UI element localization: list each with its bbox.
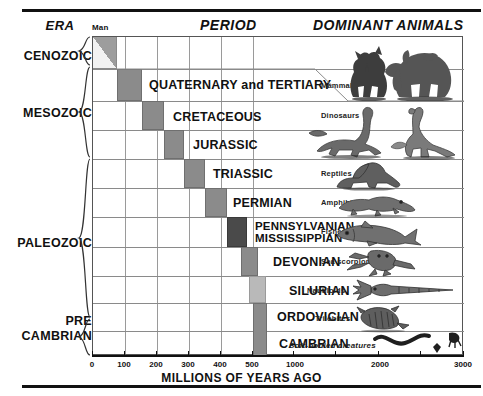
x-tick-1000 xyxy=(293,351,294,357)
era-brace-mesozoic xyxy=(77,66,91,158)
era-brace-precambrian xyxy=(77,318,91,356)
x-tick-label-1000: 1000 xyxy=(286,360,304,369)
era-brace-cenozoic xyxy=(77,36,91,66)
x-tick-400 xyxy=(220,351,221,357)
reptiles-illustration xyxy=(329,161,409,191)
column-header-period: PERIOD xyxy=(200,17,257,33)
x-tick-label-200: 200 xyxy=(149,360,162,369)
x-tick-label-2000: 2000 xyxy=(371,360,389,369)
chart-plot-area: QUATERNARY and TERTIARY CRETACEOUS JURAS… xyxy=(92,36,463,355)
x-tick-label-100: 100 xyxy=(117,360,130,369)
trilobites-illustration xyxy=(351,305,421,333)
mammals-illustration xyxy=(339,39,464,101)
column-header-animals: DOMINANT ANIMALS xyxy=(313,17,464,33)
x-tick-label-400: 400 xyxy=(213,360,226,369)
geologic-time-scale-figure: ERA PERIOD DOMINANT ANIMALS Man CENOZOIC… xyxy=(0,0,483,396)
x-axis-line xyxy=(92,355,463,357)
x-tick-label-500: 500 xyxy=(245,360,258,369)
x-tick-200 xyxy=(156,351,157,357)
soft-bodied-creatures-illustration xyxy=(371,331,463,355)
amphibians-illustration xyxy=(333,190,419,218)
x-tick-3000 xyxy=(463,351,464,357)
x-axis-title: MILLIONS OF YEARS AGO xyxy=(0,371,483,385)
x-tick-500 xyxy=(252,351,253,357)
x-tick-label-0: 0 xyxy=(90,360,94,369)
x-tick-0 xyxy=(92,351,93,357)
man-label: Man xyxy=(92,23,109,32)
nautiloids-illustration xyxy=(351,278,459,302)
x-tick-label-300: 300 xyxy=(181,360,194,369)
fishes-illustration xyxy=(331,219,423,247)
dinosaurs-illustration xyxy=(303,103,463,161)
top-rule xyxy=(22,9,481,12)
era-brace-paleozoic xyxy=(77,158,91,318)
x-tick-2500 xyxy=(420,351,421,357)
x-tick-1500 xyxy=(335,351,336,357)
x-tick-300 xyxy=(188,351,189,357)
x-tick-label-3000: 3000 xyxy=(454,360,472,369)
x-tick-100 xyxy=(124,351,125,357)
bottom-rule xyxy=(22,385,481,388)
sea-scorpions-illustration xyxy=(345,247,419,277)
column-header-era: ERA xyxy=(28,18,92,33)
x-tick-2000 xyxy=(378,351,379,357)
